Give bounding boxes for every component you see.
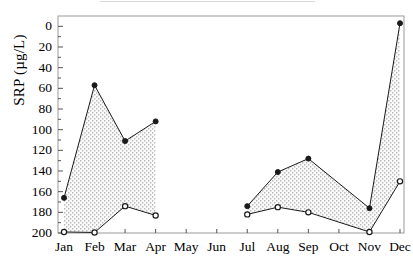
y-axis-tick-label: 180 (14, 205, 52, 219)
y-axis-tick-label: 80 (14, 102, 52, 116)
x-axis-tick-label: Dec (380, 240, 413, 254)
y-axis-tick-label: 100 (14, 123, 52, 137)
y-axis-tick-label: 160 (14, 185, 52, 199)
chart-container: SRP (µg/L) 200180160140120100806040200Ja… (0, 0, 413, 266)
y-axis-tick-label: 40 (14, 61, 52, 75)
y-axis-tick-label: 20 (14, 40, 52, 54)
y-axis-tick-label: 60 (14, 81, 52, 95)
y-axis-tick-label: 200 (14, 226, 52, 240)
y-axis-tick-label: 0 (14, 19, 52, 33)
plot-area (0, 0, 413, 266)
y-axis-tick-label: 140 (14, 164, 52, 178)
y-axis-tick-label: 120 (14, 143, 52, 157)
